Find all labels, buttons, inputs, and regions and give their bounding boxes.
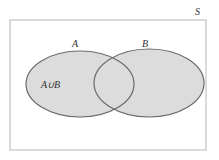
set-b-label: B bbox=[142, 38, 148, 49]
universe-label: S bbox=[195, 6, 200, 17]
union-label: A∪B bbox=[40, 79, 60, 90]
venn-diagram: S A B A∪B bbox=[0, 0, 219, 160]
set-a-label: A bbox=[71, 38, 79, 49]
